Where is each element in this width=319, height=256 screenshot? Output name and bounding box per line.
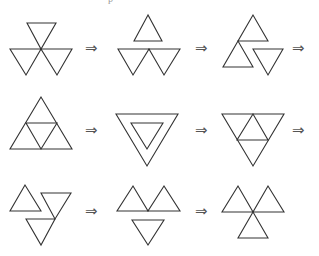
- figure-two-upright-one-inverted: [223, 15, 283, 75]
- implies-arrow-icon: ⇒: [195, 41, 208, 56]
- triangle-shape: [223, 41, 253, 67]
- triangle-shape: [10, 185, 41, 211]
- implies-arrow-icon: ⇒: [292, 41, 305, 56]
- triangle-shape: [238, 212, 268, 238]
- triangle-shape: [134, 15, 162, 41]
- triangle-shape: [27, 23, 56, 49]
- triangle-shape: [26, 219, 55, 245]
- triangle-shape: [149, 49, 180, 75]
- triangle-shape: [148, 186, 180, 211]
- triangle-shape: [132, 220, 164, 245]
- implies-arrow-icon: ⇒: [195, 123, 208, 138]
- figure-two-upright-over-inverted: [117, 186, 180, 245]
- implies-arrow-icon: ⇒: [195, 204, 208, 219]
- triangle-shape: [116, 114, 178, 166]
- triangle-shape: [117, 186, 148, 211]
- triangle-shape: [41, 49, 72, 75]
- implies-arrow-icon: ⇒: [292, 123, 305, 138]
- figure-upright-over-two-inverted: [118, 15, 180, 75]
- figure-nested-inverted-triangles: [116, 114, 178, 166]
- figure-three-upright-triangles-fan: [222, 186, 284, 238]
- triangle-shape: [10, 49, 41, 75]
- triangle-shape: [41, 193, 71, 219]
- triangle-shape: [253, 49, 283, 75]
- figure-subdivided-inverted-triangle: [222, 114, 284, 166]
- figure-subdivided-upright-triangle: [10, 97, 72, 149]
- triangle-shape: [237, 114, 268, 140]
- triangle-shape: [253, 186, 284, 212]
- implies-arrow-icon: ⇒: [85, 123, 98, 138]
- implies-arrow-icon: ⇒: [85, 204, 98, 219]
- figure-three-inverted-triangles-fan: [10, 23, 72, 75]
- triangle-shape: [26, 123, 57, 149]
- triangle-shape: [238, 15, 268, 41]
- triangle-sequence-diagram: [0, 0, 319, 256]
- implies-arrow-icon: ⇒: [85, 41, 98, 56]
- figure-staggered-three-triangles: [10, 185, 71, 245]
- triangle-shape: [118, 49, 149, 75]
- triangle-shape: [131, 123, 163, 149]
- triangle-shape: [222, 186, 253, 212]
